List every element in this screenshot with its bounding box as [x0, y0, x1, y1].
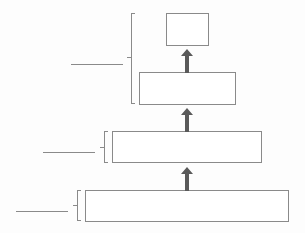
group-middle-blank-line[interactable] [43, 152, 95, 153]
group-top-bracket-tick [127, 57, 131, 58]
group-top-bracket [131, 13, 135, 104]
level-2-box [139, 72, 236, 105]
group-middle-bracket [104, 131, 108, 163]
level-1-box [166, 13, 209, 46]
level-4-box [85, 190, 289, 222]
arrow-up-icon [181, 49, 193, 73]
group-bottom-bracket [77, 190, 81, 221]
group-middle-bracket-tick [100, 147, 104, 148]
group-top-blank-line[interactable] [71, 64, 123, 65]
arrow-up-icon [181, 108, 193, 132]
group-bottom-bracket-tick [73, 205, 77, 206]
level-3-box [112, 131, 262, 163]
arrow-up-icon [181, 167, 193, 191]
group-bottom-blank-line[interactable] [16, 211, 68, 212]
